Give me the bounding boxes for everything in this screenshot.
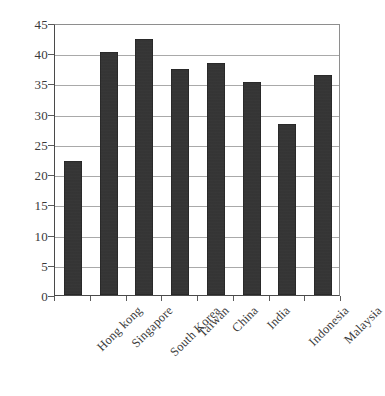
y-axis-tick-label: 40: [8, 48, 48, 61]
bar-slot: [55, 25, 91, 295]
bar: [207, 63, 225, 295]
bar-slot: [162, 25, 198, 295]
y-axis-tick-mark: [48, 205, 54, 206]
y-axis-tick-label: 15: [8, 199, 48, 212]
bar-slot: [234, 25, 270, 295]
y-axis-tick-label: 35: [8, 78, 48, 91]
bar-slot: [91, 25, 127, 295]
y-axis-tick-mark: [48, 175, 54, 176]
y-axis-tick-mark: [48, 145, 54, 146]
y-axis-tick-label: 45: [8, 18, 48, 31]
x-axis-tick-mark: [197, 296, 198, 301]
bar-slot: [127, 25, 163, 295]
y-axis-tick-mark: [48, 236, 54, 237]
x-axis-tick-mark: [90, 296, 91, 301]
bar-slot: [270, 25, 306, 295]
bar: [278, 124, 296, 295]
y-axis-tick-label: 20: [8, 169, 48, 182]
y-axis-tick-mark: [48, 266, 54, 267]
bar-slot: [305, 25, 341, 295]
x-axis-category-label: India: [264, 304, 292, 332]
y-axis-tick-mark: [48, 84, 54, 85]
x-axis-tick-mark: [54, 296, 55, 301]
bar: [243, 82, 261, 295]
y-axis-tick-label: 25: [8, 138, 48, 151]
bar: [171, 69, 189, 295]
y-axis-tick-label: 5: [8, 259, 48, 272]
bar: [135, 39, 153, 295]
y-axis-tick-mark: [48, 54, 54, 55]
y-axis-tick-label: 30: [8, 108, 48, 121]
x-axis-tick-mark: [161, 296, 162, 301]
x-axis-category-label: China: [230, 304, 261, 335]
bar: [100, 52, 118, 295]
bar-slot: [198, 25, 234, 295]
y-axis-tick-mark: [48, 115, 54, 116]
x-axis-tick-mark: [269, 296, 270, 301]
plot-area: [54, 24, 340, 296]
x-axis-tick-mark: [304, 296, 305, 301]
bar: [64, 161, 82, 295]
x-axis-tick-mark: [233, 296, 234, 301]
y-axis-tick-mark: [48, 24, 54, 25]
x-axis-category-label: Indonesia: [307, 304, 351, 348]
x-axis-tick-mark: [340, 296, 341, 301]
bar: [314, 75, 332, 295]
y-axis-tick-label: 10: [8, 229, 48, 242]
y-axis-tick-label: 0: [8, 290, 48, 303]
x-axis-tick-mark: [126, 296, 127, 301]
